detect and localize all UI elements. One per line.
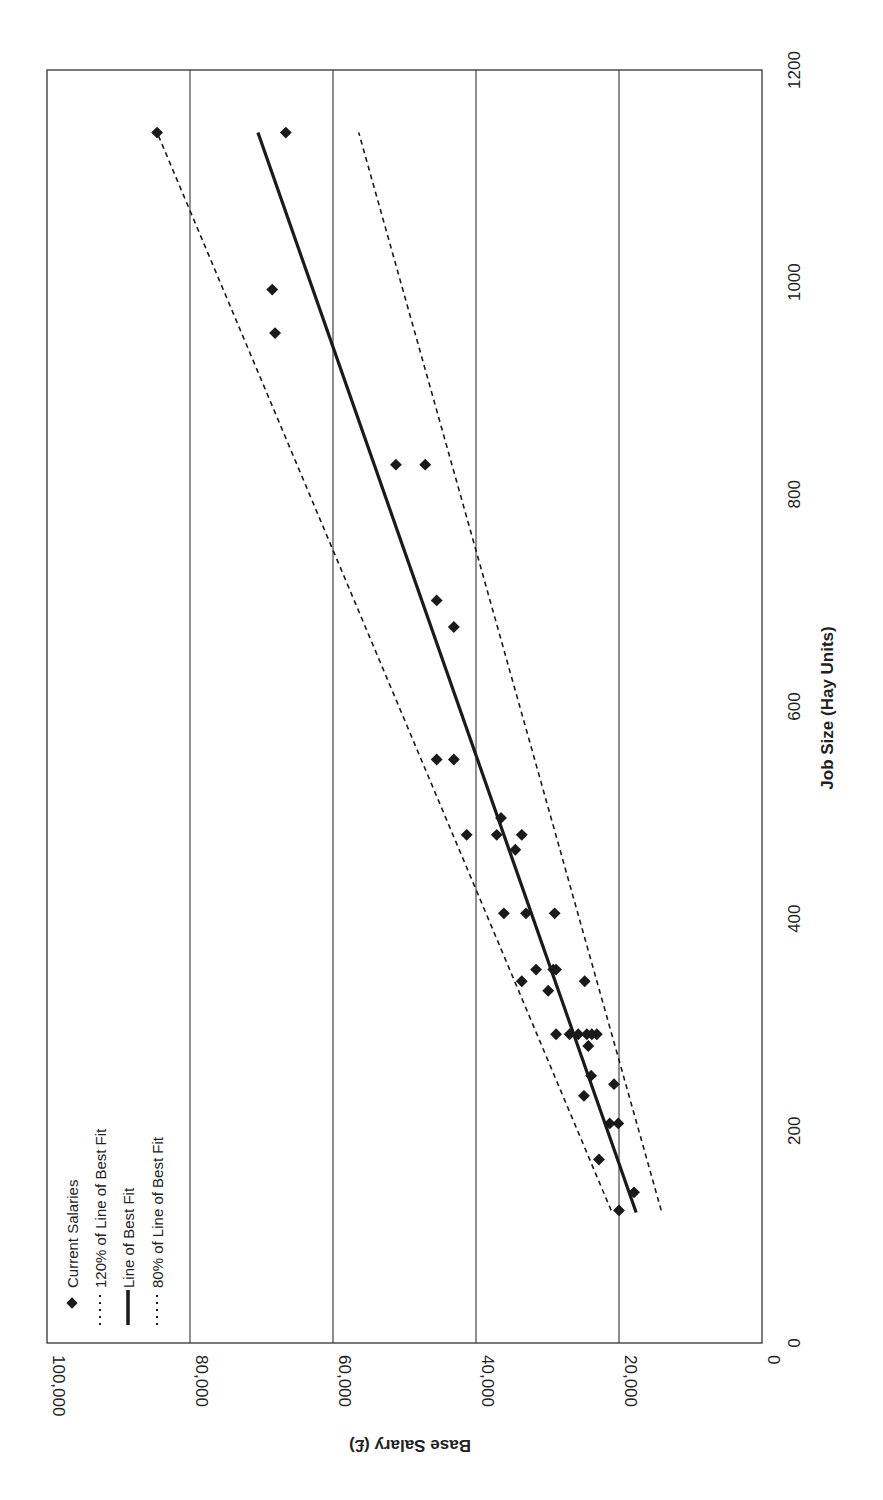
salary-chart: 020,00040,00060,00080,000100,000 0200400… <box>0 0 883 1500</box>
diamond-marker-icon <box>582 1040 594 1052</box>
diamond-marker-icon <box>613 1204 625 1216</box>
job-size-tick-label: 1000 <box>785 263 804 301</box>
job-size-axis-title: Job Size (Hay Units) <box>818 626 837 789</box>
salary-tick-label: 20,000 <box>621 1355 640 1407</box>
svg-text:80% of Line of Best Fit: 80% of Line of Best Fit <box>149 1136 166 1288</box>
svg-text:Current Salaries: Current Salaries <box>64 1180 81 1288</box>
diamond-marker-icon <box>593 1154 605 1166</box>
diamond-marker-icon <box>266 284 278 296</box>
diamond-marker-icon <box>448 754 460 766</box>
job-size-tick-label: 1200 <box>785 51 804 89</box>
legend-item-best-fit: Line of Best Fit <box>120 1187 137 1325</box>
diamond-marker-icon <box>530 964 542 976</box>
job-size-tick-label: 400 <box>785 904 804 932</box>
diamond-marker-icon <box>390 459 402 471</box>
salary-tick-label: 40,000 <box>478 1355 497 1407</box>
job-size-tick-label: 200 <box>785 1117 804 1145</box>
salary-tick-label: 0 <box>764 1355 783 1364</box>
diamond-marker-icon <box>461 829 473 841</box>
job-size-tick-label: 0 <box>785 1338 804 1347</box>
legend-item-current-salaries: Current Salaries <box>64 1180 81 1309</box>
trend-lines <box>157 133 661 1213</box>
salary-axis-ticks: 020,00040,00060,00080,000100,000 <box>49 1355 783 1416</box>
diamond-marker-icon <box>608 1078 620 1090</box>
legend-item-120pct: 120% of Line of Best Fit <box>92 1128 109 1325</box>
diamond-marker-icon <box>419 459 431 471</box>
salary-tick-label: 100,000 <box>49 1355 68 1416</box>
diamond-marker-icon <box>542 985 554 997</box>
diamond-marker-icon <box>578 1090 590 1102</box>
legend: Current Salaries 120% of Line of Best Fi… <box>64 1128 166 1325</box>
job-size-tick-label: 800 <box>785 480 804 508</box>
diamond-marker-icon <box>550 1028 562 1040</box>
diamond-marker-icon <box>498 907 510 919</box>
gridlines <box>190 70 619 1343</box>
salary-tick-label: 60,000 <box>335 1355 354 1407</box>
diamond-marker-icon <box>280 127 292 139</box>
salary-tick-label: 80,000 <box>192 1355 211 1407</box>
svg-text:Line of Best Fit: Line of Best Fit <box>120 1187 137 1288</box>
data-points <box>151 127 640 1217</box>
diamond-marker-icon <box>269 327 281 339</box>
diamond-marker-icon <box>448 621 460 633</box>
legend-item-80pct: 80% of Line of Best Fit <box>149 1136 166 1325</box>
job-size-axis-ticks: 020040060080010001200 <box>785 51 804 1348</box>
band-line <box>359 133 661 1211</box>
band-line <box>157 133 611 1211</box>
diamond-marker-icon <box>579 975 591 987</box>
diamond-marker-icon <box>66 1297 77 1308</box>
diamond-marker-icon <box>431 754 443 766</box>
diamond-marker-icon <box>549 907 561 919</box>
job-size-tick-label: 600 <box>785 692 804 720</box>
diamond-marker-icon <box>516 829 528 841</box>
salary-axis-title: Base Salary (£) <box>349 1436 471 1455</box>
diamond-marker-icon <box>516 975 528 987</box>
diamond-marker-icon <box>431 594 443 606</box>
diamond-marker-icon <box>612 1117 624 1129</box>
diamond-marker-icon <box>151 127 163 139</box>
best-fit-line <box>258 133 636 1213</box>
svg-text:120% of Line of Best Fit: 120% of Line of Best Fit <box>92 1128 109 1288</box>
